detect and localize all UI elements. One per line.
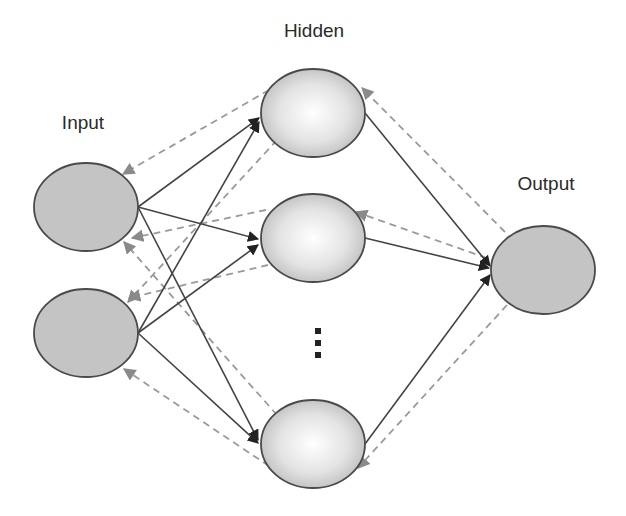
neural-network-diagram: Hidden Input Output	[0, 0, 626, 516]
hidden-node-2	[261, 194, 365, 282]
edge-input1-hidden2	[138, 207, 258, 239]
edge-input2-hiddenN	[138, 333, 258, 443]
edge-input2-hidden1	[138, 122, 259, 333]
edge-input1-hiddenN	[138, 207, 258, 440]
edge-back-output-hidden2	[356, 212, 498, 262]
ellipsis-dots	[315, 328, 321, 358]
edge-back-hidden1-input1	[123, 90, 269, 174]
edge-back-output-hidden1	[362, 88, 505, 232]
input-layer	[34, 163, 138, 377]
hidden-layer	[261, 69, 365, 488]
edge-back-output-hiddenN	[358, 305, 507, 468]
input-node-1	[34, 163, 138, 251]
edge-hiddenN-output	[365, 275, 490, 444]
edge-input1-hidden1	[138, 118, 259, 207]
label-input: Input	[62, 112, 105, 133]
edge-input2-hidden2	[138, 245, 258, 333]
hidden-node-n	[261, 400, 365, 488]
label-output: Output	[517, 173, 575, 194]
output-node	[491, 226, 595, 314]
hidden-node-1	[261, 69, 365, 157]
output-layer	[491, 226, 595, 314]
label-hidden: Hidden	[284, 20, 344, 41]
input-node-2	[34, 289, 138, 377]
